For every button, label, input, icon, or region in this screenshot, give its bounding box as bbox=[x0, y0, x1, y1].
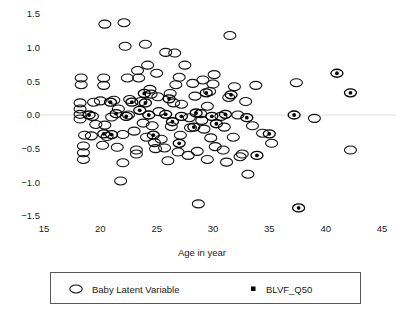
data-point bbox=[189, 92, 201, 100]
data-point-center bbox=[142, 92, 146, 96]
data-point bbox=[111, 143, 123, 151]
y-tick-label: 1.5 bbox=[27, 8, 40, 19]
data-point bbox=[227, 133, 239, 141]
y-tick-label: −1.5 bbox=[21, 210, 40, 221]
x-tick-label: 40 bbox=[320, 223, 331, 234]
scatter-plot-canvas: 15202530354045 −1.5−1.0−0.50.00.51.01.5 … bbox=[0, 0, 404, 316]
data-point-center bbox=[130, 100, 134, 104]
data-point-center bbox=[110, 133, 114, 137]
data-point-center bbox=[267, 132, 271, 136]
data-point bbox=[118, 19, 130, 27]
data-point bbox=[115, 177, 127, 185]
data-point-center bbox=[223, 112, 227, 116]
data-point-center bbox=[194, 111, 198, 115]
data-point bbox=[242, 170, 254, 178]
y-tick-label: 1.0 bbox=[27, 42, 40, 53]
data-point bbox=[99, 121, 111, 129]
y-tick-label: −1.0 bbox=[21, 177, 40, 188]
data-point-center bbox=[349, 91, 353, 95]
data-point bbox=[132, 67, 144, 75]
data-point bbox=[74, 115, 86, 123]
data-point bbox=[117, 131, 129, 139]
data-point bbox=[201, 102, 213, 110]
data-point-center bbox=[167, 97, 171, 101]
data-point bbox=[266, 139, 278, 147]
data-point-center bbox=[229, 93, 233, 97]
x-axis-title: Age in year bbox=[178, 247, 226, 258]
data-point bbox=[191, 147, 203, 155]
data-point-center bbox=[210, 114, 214, 118]
data-point bbox=[175, 100, 187, 108]
data-point bbox=[192, 200, 204, 208]
data-point bbox=[133, 74, 145, 82]
data-point bbox=[221, 158, 233, 166]
x-tick-label: 35 bbox=[264, 223, 275, 234]
data-point-center bbox=[180, 114, 184, 118]
data-point-center bbox=[255, 154, 259, 158]
data-point bbox=[290, 79, 302, 87]
data-point-center bbox=[204, 91, 208, 95]
data-point bbox=[174, 131, 186, 139]
data-point bbox=[98, 81, 110, 89]
data-point bbox=[119, 42, 131, 50]
x-tick-label: 45 bbox=[377, 223, 388, 234]
data-point-center bbox=[124, 114, 128, 118]
series-blvf-q50 bbox=[83, 69, 356, 212]
x-tick-label: 20 bbox=[95, 223, 106, 234]
data-point bbox=[152, 93, 164, 101]
data-point bbox=[182, 151, 194, 159]
legend-marker-blvf-q50 bbox=[251, 287, 256, 292]
data-point bbox=[308, 114, 320, 122]
data-point bbox=[151, 69, 163, 77]
data-point-center bbox=[144, 101, 148, 105]
data-point bbox=[162, 157, 174, 165]
data-point-center bbox=[114, 112, 118, 116]
data-point-center bbox=[177, 141, 181, 145]
data-point bbox=[201, 155, 213, 163]
data-point bbox=[117, 159, 129, 167]
data-point bbox=[246, 122, 258, 130]
data-point-center bbox=[171, 120, 175, 124]
legend-label-blvf-q50: BLVF_Q50 bbox=[266, 284, 312, 295]
data-point-center bbox=[147, 113, 151, 117]
chart-legend: Baby Latent Variable BLVF_Q50 bbox=[51, 273, 361, 304]
x-axis-tick-labels: 15202530354045 bbox=[39, 223, 388, 234]
y-tick-label: −0.5 bbox=[21, 143, 40, 154]
x-tick-label: 30 bbox=[208, 223, 219, 234]
data-point bbox=[250, 81, 262, 89]
data-point-center bbox=[151, 133, 155, 137]
x-tick-label: 25 bbox=[151, 223, 162, 234]
data-point bbox=[224, 32, 236, 40]
y-tick-label: 0.0 bbox=[27, 109, 40, 120]
data-point bbox=[170, 81, 182, 89]
data-point-center bbox=[138, 108, 142, 112]
data-point bbox=[187, 79, 199, 87]
x-tick-label: 15 bbox=[39, 223, 50, 234]
scatter-chart-figure: 15202530354045 −1.5−1.0−0.50.00.51.01.5 … bbox=[0, 0, 404, 316]
data-point bbox=[228, 83, 240, 91]
y-tick-label: 0.5 bbox=[27, 76, 40, 87]
data-point bbox=[142, 61, 154, 69]
data-point-center bbox=[87, 113, 91, 117]
data-point-center bbox=[164, 112, 168, 116]
data-point bbox=[344, 146, 356, 154]
data-point bbox=[97, 141, 109, 149]
y-axis-tick-labels: −1.5−1.0−0.50.00.51.01.5 bbox=[21, 8, 40, 221]
data-point bbox=[85, 132, 97, 140]
data-point-center bbox=[297, 206, 301, 210]
legend-label-baby-latent-variable: Baby Latent Variable bbox=[92, 284, 180, 295]
data-point-center bbox=[245, 116, 249, 120]
data-point-center bbox=[109, 100, 113, 104]
data-point bbox=[128, 127, 140, 135]
data-point bbox=[173, 73, 185, 81]
data-point bbox=[205, 134, 217, 142]
data-point bbox=[112, 105, 124, 113]
data-point bbox=[240, 98, 252, 106]
data-point bbox=[208, 71, 220, 79]
data-point-center bbox=[192, 125, 196, 129]
data-point bbox=[234, 153, 246, 161]
data-point bbox=[169, 49, 181, 57]
data-point bbox=[179, 61, 191, 69]
data-point bbox=[121, 74, 133, 82]
data-point bbox=[99, 20, 111, 28]
